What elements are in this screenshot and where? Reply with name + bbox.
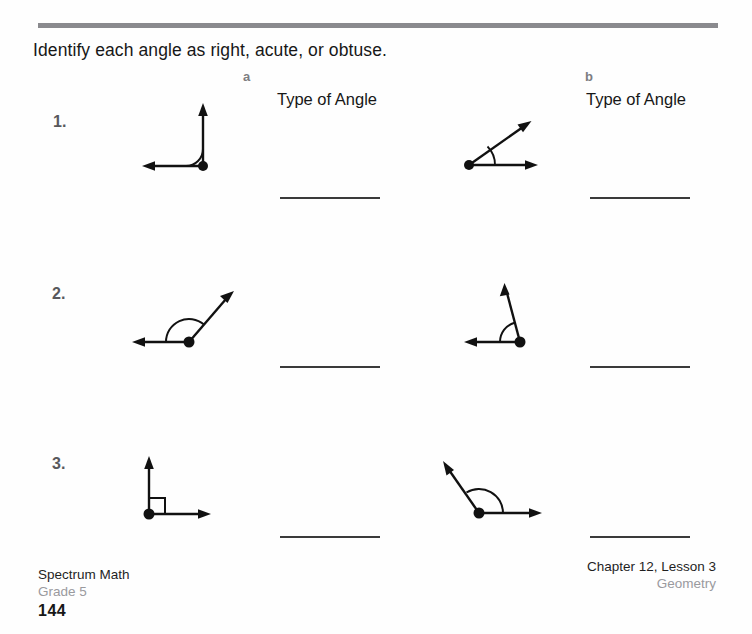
column-title-b: Type of Angle (586, 90, 686, 109)
angle-figure-2a (110, 278, 240, 358)
footer-left: Spectrum Math Grade 5 144 (38, 566, 130, 620)
row-number-3: 3. (52, 455, 65, 473)
footer-right: Chapter 12, Lesson 3 Geometry (587, 558, 716, 592)
angle-figure-3b (432, 448, 562, 528)
angle-figure-2b (448, 278, 568, 358)
row-number-1: 1. (53, 113, 66, 131)
worksheet-page: Identify each angle as right, acute, or … (0, 0, 752, 634)
footer-book-title: Spectrum Math (38, 566, 130, 583)
column-letter-a: a (243, 69, 250, 84)
footer-topic: Geometry (587, 575, 716, 592)
answer-blank-3b[interactable] (590, 536, 690, 538)
answer-blank-2a[interactable] (280, 366, 380, 368)
angle-figure-1a (110, 100, 230, 180)
row-number-2: 2. (52, 285, 65, 303)
footer-chapter-lesson: Chapter 12, Lesson 3 (587, 558, 716, 575)
instruction-text: Identify each angle as right, acute, or … (33, 40, 387, 61)
angle-figure-3a (128, 448, 238, 528)
top-rule-divider (38, 23, 718, 28)
answer-blank-2b[interactable] (590, 366, 690, 368)
answer-blank-1a[interactable] (280, 197, 380, 199)
column-letter-b: b (585, 69, 593, 84)
answer-blank-3a[interactable] (280, 536, 380, 538)
footer-grade: Grade 5 (38, 583, 130, 600)
page-number: 144 (38, 602, 130, 620)
angle-figure-1b (450, 112, 570, 182)
answer-blank-1b[interactable] (590, 197, 690, 199)
column-title-a: Type of Angle (277, 90, 377, 109)
